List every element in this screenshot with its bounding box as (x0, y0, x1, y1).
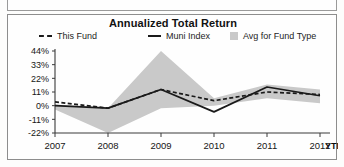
y-axis-tick-labels: 44%33%22%11%0%-11%-22% (28, 46, 49, 138)
chart-title: Annualized Total Return (8, 17, 338, 29)
dashed-line-swatch-icon (39, 35, 52, 37)
y-tick-label: 44% (31, 46, 49, 56)
x-axis-tick-labels: 200720082009201020112012 (44, 140, 330, 151)
y-tick-label: 11% (32, 87, 49, 97)
legend-label-muni-index: Muni Index (166, 31, 210, 41)
gray-box-swatch-icon (230, 32, 238, 40)
chart-legend: This Fund Muni Index Avg for Fund Type (8, 31, 338, 45)
top-empty-strip (7, 0, 337, 11)
plot-area: 44%33%22%11%0%-11%-22% 20072008200920102… (8, 45, 338, 160)
legend-item-avg-for-fund-type: Avg for Fund Type (230, 31, 316, 41)
x-tick-label: 2009 (150, 140, 171, 151)
y-tick-label: -11% (29, 115, 49, 125)
y-tick-label: 33% (31, 60, 49, 70)
legend-item-this-fund: This Fund (39, 31, 97, 41)
chart-screenshot: Annualized Total Return This Fund Muni I… (0, 0, 344, 167)
legend-item-muni-index: Muni Index (148, 31, 210, 41)
x-tick-label: 2010 (203, 140, 224, 151)
x-tick-label: 2011 (257, 140, 277, 151)
legend-label-this-fund: This Fund (57, 31, 97, 41)
x-tick-label: 2008 (97, 140, 118, 151)
solid-line-swatch-icon (148, 35, 161, 37)
chart-svg: 44%33%22%11%0%-11%-22% 20072008200920102… (8, 45, 338, 160)
x-tick-label: 2007 (44, 140, 65, 151)
annualized-total-return-chart-panel: Annualized Total Return This Fund Muni I… (7, 14, 337, 160)
y-tick-label: 22% (31, 74, 49, 84)
y-tick-label: -22% (28, 128, 49, 138)
legend-label-avg-for-fund-type: Avg for Fund Type (243, 31, 316, 41)
x-axis-ytd-label: YTD (325, 141, 338, 151)
y-tick-label: 0% (36, 101, 49, 111)
